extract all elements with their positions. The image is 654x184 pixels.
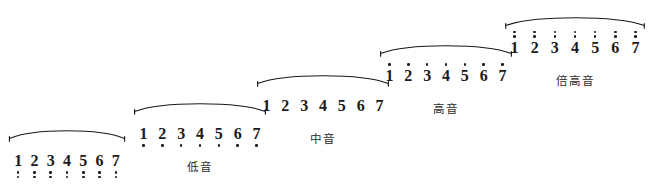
octave-dots-above: [296, 87, 313, 97]
octave-dots-below: [456, 84, 473, 97]
octave-dot-icon: [634, 31, 637, 34]
octave-dot-icon: [66, 176, 69, 179]
octave-dots-above: [456, 57, 473, 67]
octave-dots-below: [277, 114, 294, 127]
register-label: 倍高音: [504, 72, 646, 88]
octave-dots-above: [437, 57, 454, 67]
scale-degree: 6: [91, 142, 107, 182]
octave-dots-above: [526, 29, 543, 39]
octave-dots-above: [381, 57, 398, 67]
octave-dots-below: [566, 56, 583, 69]
scale-degree-number: 3: [173, 125, 190, 142]
octave-dots-above: [154, 115, 171, 125]
octave-dot-icon: [513, 31, 516, 34]
scale-degree-number: 6: [229, 125, 246, 142]
scale-degree-number: 2: [400, 67, 417, 84]
octave-dot-icon: [180, 144, 183, 147]
octave-dot-icon: [407, 63, 410, 66]
octave-dots-above: [475, 57, 492, 67]
scale-degree: 2: [400, 57, 417, 97]
octave-dots-above: [506, 29, 523, 39]
register-label: 低音: [133, 158, 267, 174]
octave-dot-icon: [199, 144, 202, 147]
scale-degree: 1: [381, 57, 398, 97]
octave-dot-icon: [33, 171, 36, 174]
octave-dot-icon: [513, 35, 516, 38]
scale-degree: 4: [191, 115, 208, 155]
octave-dots-below: [91, 169, 107, 182]
octave-dots-below: [437, 84, 454, 97]
octave-dots-above: [10, 142, 26, 152]
scale-degree-number: 3: [296, 97, 313, 114]
scale-degree: 7: [108, 142, 124, 182]
octave-dots-above: [108, 142, 124, 152]
octave-dot-icon: [614, 31, 617, 34]
octave-dot-icon: [218, 144, 221, 147]
octave-dots-below: [607, 56, 624, 69]
scale-degree: 3: [296, 87, 313, 127]
octave-dot-icon: [554, 31, 557, 34]
octave-dots-above: [135, 115, 152, 125]
scale-degree-number: 1: [135, 125, 152, 142]
octave-dot-icon: [554, 35, 557, 38]
scale-degree-row: 1234567: [256, 87, 390, 127]
octave-dots-above: [352, 87, 369, 97]
jianpu-octave-diagram: 1234567倍低音1234567低音1234567中音1234567高音123…: [0, 0, 654, 184]
scale-degree-row: 1234567: [379, 57, 513, 97]
scale-degree-row: 1234567: [8, 142, 126, 182]
scale-degree-number: 5: [456, 67, 473, 84]
octave-dot-icon: [614, 35, 617, 38]
octave-dots-below: [191, 142, 208, 155]
scale-degree: 1: [10, 142, 26, 182]
scale-degree-number: 2: [526, 39, 543, 56]
scale-degree: 4: [566, 29, 583, 69]
scale-degree: 6: [607, 29, 624, 69]
octave-dots-above: [43, 142, 59, 152]
register-label: 中音: [256, 130, 390, 146]
octave-dots-above: [191, 115, 208, 125]
octave-dots-below: [59, 169, 75, 182]
scale-degree-number: 5: [75, 152, 91, 169]
scale-degree: 6: [475, 57, 492, 97]
octave-dots-above: [75, 142, 91, 152]
octave-dots-above: [566, 29, 583, 39]
scale-degree-number: 2: [154, 125, 171, 142]
scale-degree: 3: [546, 29, 563, 69]
octave-dot-icon: [17, 176, 20, 179]
scale-degree-number: 1: [381, 67, 398, 84]
scale-degree: 2: [277, 87, 294, 127]
octave-dots-below: [381, 84, 398, 97]
octave-dots-above: [546, 29, 563, 39]
octave-dot-icon: [634, 35, 637, 38]
scale-degree: 3: [173, 115, 190, 155]
scale-degree-number: 3: [546, 39, 563, 56]
octave-dots-above: [400, 57, 417, 67]
octave-dot-icon: [98, 171, 101, 174]
scale-degree-number: 6: [475, 67, 492, 84]
octave-dots-below: [506, 56, 523, 69]
scale-degree: 1: [258, 87, 275, 127]
octave-group: 1234567高音: [379, 41, 513, 116]
scale-degree-number: 4: [59, 152, 75, 169]
octave-dots-below: [210, 142, 227, 155]
octave-dots-above: [173, 115, 190, 125]
octave-dots-below: [296, 114, 313, 127]
octave-dots-below: [333, 114, 350, 127]
octave-dots-above: [314, 87, 331, 97]
octave-dot-icon: [426, 63, 429, 66]
octave-dots-below: [587, 56, 604, 69]
scale-degree: 5: [75, 142, 91, 182]
scale-degree: 1: [506, 29, 523, 69]
scale-degree-number: 2: [277, 97, 294, 114]
octave-dots-below: [258, 114, 275, 127]
octave-group: 1234567倍低音: [8, 126, 126, 184]
octave-dots-above: [258, 87, 275, 97]
scale-degree-number: 3: [43, 152, 59, 169]
octave-dots-below: [314, 114, 331, 127]
octave-dots-above: [627, 29, 644, 39]
scale-degree: 4: [59, 142, 75, 182]
scale-degree: 7: [627, 29, 644, 69]
octave-dot-icon: [49, 171, 52, 174]
octave-dots-below: [400, 84, 417, 97]
scale-degree-number: 4: [191, 125, 208, 142]
